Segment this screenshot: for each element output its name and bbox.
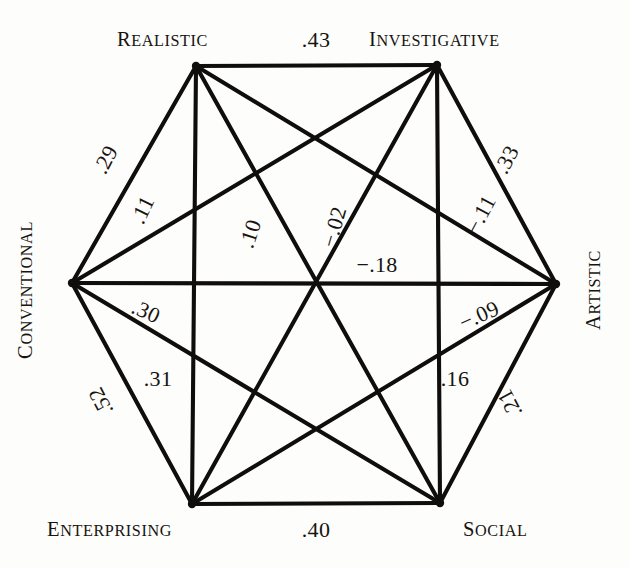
- vertex-label-conventional: CONVENTIONAL: [14, 221, 36, 359]
- edge-value-realistic-enterprising: .31: [144, 366, 172, 391]
- vertex-label-realistic: REALISTIC: [117, 28, 208, 50]
- vertex-label-enterprising: ENTERPRISING: [47, 518, 172, 540]
- edge-conventional-realistic: [72, 66, 196, 283]
- edge-conventional-social: [72, 283, 440, 503]
- edge-value-investigative-social: .16: [441, 366, 469, 391]
- edge-social-enterprising: [192, 503, 440, 504]
- edge-value-investigative-enterprising: −.02: [316, 204, 351, 250]
- vertex-dot-enterprising: [188, 500, 196, 508]
- edge-value-realistic-social: .10: [234, 216, 267, 251]
- edge-value-conventional-realistic: .29: [88, 141, 123, 178]
- vertex-dot-investigative: [433, 61, 441, 69]
- vertex-dot-realistic: [192, 62, 200, 70]
- edge-investigative-social: [437, 65, 440, 503]
- vertex-dot-artistic: [552, 280, 560, 288]
- edge-value-enterprising-artistic: .30: [128, 294, 164, 328]
- edge-value-artistic-social: .21: [492, 385, 527, 422]
- riasec-hexagon-figure: .43.33.21.40.52.29.11−.11.10−.02−.18−.09…: [0, 0, 629, 568]
- edge-value-enterprising-conventional: .52: [83, 383, 118, 420]
- edge-value-social-enterprising: .40: [302, 517, 330, 542]
- edge-value-realistic-investigative: .43: [302, 27, 330, 52]
- vertex-label-social: SOCIAL: [463, 518, 527, 540]
- vertex-label-investigative: INVESTIGATIVE: [369, 28, 500, 50]
- edge-value-conventional-artistic: −.18: [356, 252, 397, 277]
- vertex-label-artistic: ARTISTIC: [582, 250, 604, 330]
- edge-value-conventional-investigative: .11: [125, 192, 160, 228]
- edge-realistic-investigative: [196, 65, 437, 66]
- edges-group: [72, 65, 556, 504]
- hexagon-diagram: .43.33.21.40.52.29.11−.11.10−.02−.18−.09…: [0, 0, 629, 568]
- vertex-dot-conventional: [68, 279, 76, 287]
- edge-investigative-artistic: [437, 65, 556, 284]
- edge-conventional-artistic: [72, 283, 556, 284]
- edge-realistic-enterprising: [192, 66, 196, 504]
- vertex-dot-social: [436, 499, 444, 507]
